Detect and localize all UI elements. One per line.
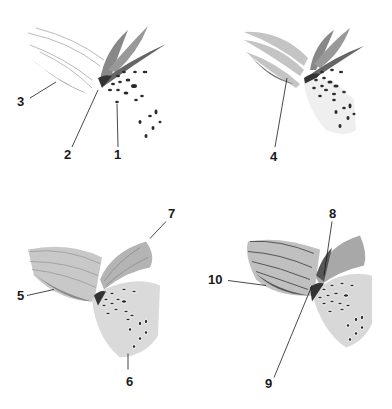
flower-sketch-3: [0, 205, 196, 409]
callout-label-5: 5: [17, 289, 24, 302]
flower-sketch-2: [196, 0, 392, 205]
flower-sketch-4: [196, 205, 392, 409]
callout-label-6: 6: [126, 375, 133, 388]
panel-step-1: 3 2 1: [0, 0, 196, 205]
flower-sketch-1: [0, 0, 196, 205]
callout-label-10: 10: [208, 273, 222, 286]
panel-step-4: 8 10 9: [196, 205, 392, 409]
callout-label-8: 8: [329, 207, 336, 220]
callout-label-4: 4: [270, 150, 277, 163]
callout-label-1: 1: [114, 148, 121, 161]
callout-label-7: 7: [168, 207, 175, 220]
panel-step-3: 5 6 7: [0, 205, 196, 409]
callout-label-9: 9: [265, 377, 272, 390]
panel-step-2: 4: [196, 0, 392, 205]
callout-label-2: 2: [64, 148, 71, 161]
callout-label-3: 3: [17, 95, 24, 108]
